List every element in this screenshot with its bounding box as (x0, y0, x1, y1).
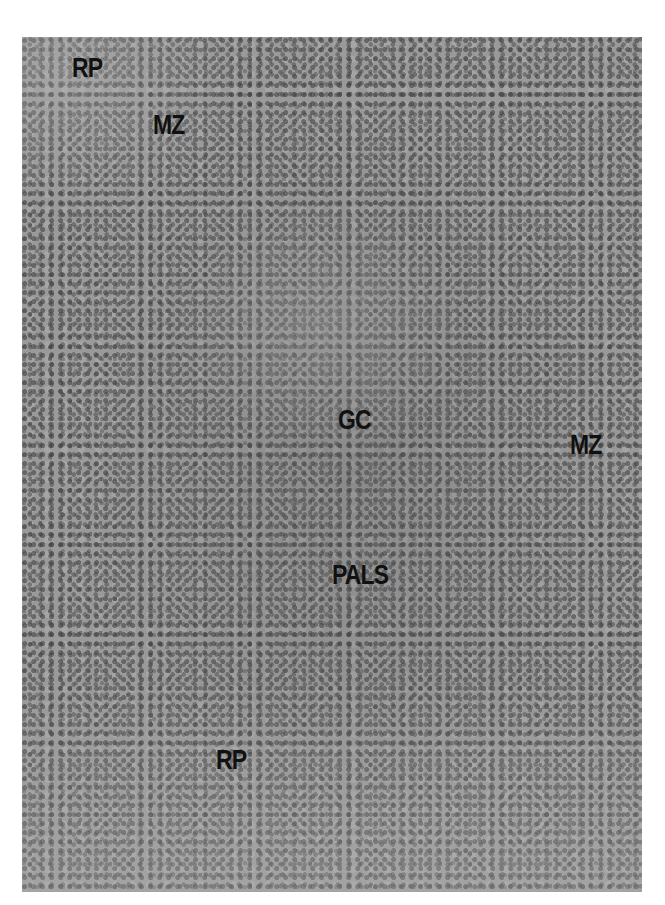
label-red-pulp-top: RP (72, 52, 102, 84)
label-red-pulp-bottom: RP (216, 744, 246, 776)
spleen-micrograph (22, 37, 642, 892)
label-pals: PALS (332, 559, 388, 591)
red-pulp-region-bottom (22, 677, 642, 892)
label-germinal-center: GC (338, 404, 371, 436)
label-marginal-zone-right: MZ (570, 429, 602, 461)
label-marginal-zone-left: MZ (153, 109, 185, 141)
germinal-center-region (172, 197, 472, 457)
